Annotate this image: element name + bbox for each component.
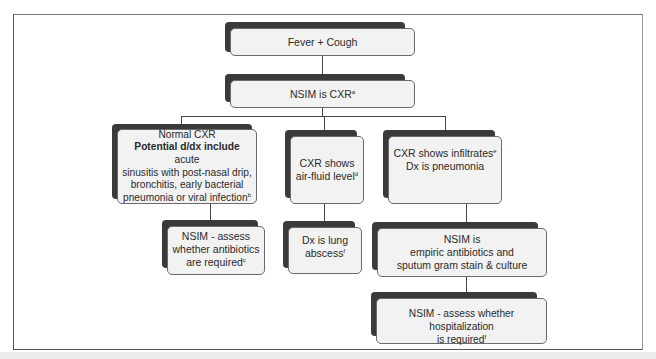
- node-box: Dx is lung abscessf: [288, 227, 362, 274]
- node-box: NSIM is CXRa: [230, 80, 415, 108]
- edge-infiltrates-to-empiric: [466, 204, 467, 222]
- node-text-line: air-fluid leveld: [296, 170, 358, 183]
- node-text-line: are requiredc: [186, 256, 246, 269]
- node-text-line: is requiredf: [437, 333, 486, 346]
- edge-normal-to-antibiotics: [210, 203, 211, 220]
- node-text-line: pneumonia or viral infectionb: [123, 192, 251, 205]
- edge-nsim-down: [322, 107, 323, 116]
- node-text: NSIM is CXRa: [290, 88, 355, 101]
- node-box: NSIM - assess whether hospitalization is…: [376, 298, 547, 344]
- edge-branch-horizontal: [181, 116, 446, 117]
- edge-empiric-to-hospitalization: [466, 277, 467, 292]
- node-text-line: Potential d/dx include acute: [122, 141, 252, 166]
- node-box: Fever + Cough: [230, 28, 415, 56]
- node-box: NSIM is empiric antibiotics and sputum g…: [377, 228, 547, 277]
- node-box: CXR shows air-fluid leveld: [290, 136, 364, 204]
- node-text-line: CXR shows infiltratese: [393, 147, 496, 160]
- bottom-band: [0, 352, 656, 359]
- node-text: Fever + Cough: [288, 36, 358, 49]
- node-text-line: abscessf: [305, 247, 345, 260]
- node-box: CXR shows infiltratese Dx is pneumonia: [388, 136, 502, 204]
- node-box: NSIM - assess whether antibiotics are re…: [167, 226, 265, 275]
- edge-airfluid-to-abscess: [324, 204, 325, 221]
- node-box: Normal CXR Potential d/dx include acute …: [117, 129, 257, 204]
- edge-to-infiltrates: [445, 116, 446, 130]
